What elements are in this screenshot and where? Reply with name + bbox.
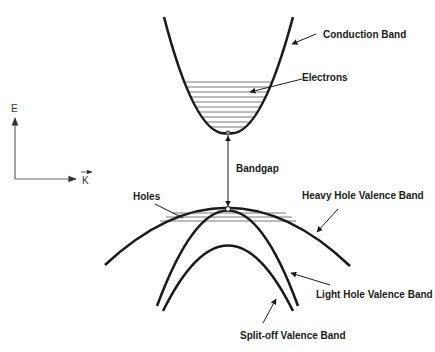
split-off-label: Split-off Valence Band bbox=[240, 330, 346, 341]
heavy-hole-label: Heavy Hole Valence Band bbox=[302, 190, 424, 201]
light-hole-band-curve bbox=[157, 211, 298, 307]
axes: E K bbox=[11, 103, 92, 186]
light-hole-label: Light Hole Valence Band bbox=[316, 289, 433, 300]
split-off-band-curve bbox=[163, 246, 293, 312]
split-off-pointer bbox=[263, 299, 276, 323]
conduction-band-curve bbox=[164, 17, 293, 133]
bandgap-label: Bandgap bbox=[236, 163, 279, 174]
electrons-pointer bbox=[250, 79, 302, 92]
heavy-hole-pointer bbox=[317, 209, 338, 232]
conduction-band-minimum bbox=[226, 131, 230, 135]
conduction-band-label: Conduction Band bbox=[323, 29, 406, 40]
valence-band-maximum bbox=[226, 207, 231, 212]
electron-fill bbox=[150, 82, 300, 127]
k-axis-label: K bbox=[82, 175, 89, 186]
heavy-hole-band-curve bbox=[105, 208, 350, 266]
band-diagram: E K Conduction Band Electrons Ba bbox=[0, 0, 435, 352]
holes-pointer bbox=[155, 204, 183, 218]
electrons-label: Electrons bbox=[302, 72, 348, 83]
energy-axis-label: E bbox=[11, 103, 18, 114]
conduction-band-pointer bbox=[292, 34, 316, 44]
holes-label: Holes bbox=[133, 191, 161, 202]
light-hole-pointer bbox=[291, 273, 330, 285]
